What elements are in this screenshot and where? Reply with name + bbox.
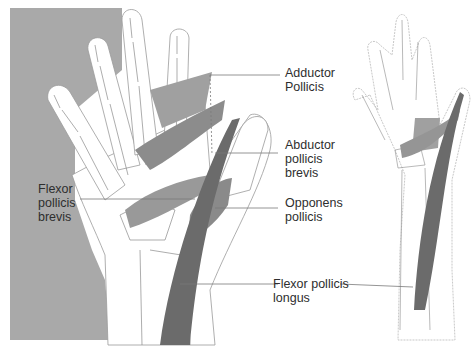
thumb-muscles-diagram <box>0 0 474 349</box>
small-arm <box>353 15 470 341</box>
label-opponens-pollicis: Opponens pollicis <box>285 196 343 224</box>
label-flexor-pollicis-longus: Flexor pollicis longus <box>273 277 349 305</box>
label-flexor-pollicis-brevis: Flexor pollicis brevis <box>38 182 76 224</box>
label-abductor-pollicis-brevis: Abductor pollicis brevis <box>285 138 335 180</box>
label-adductor-pollicis: Adductor Pollicis <box>285 66 335 94</box>
